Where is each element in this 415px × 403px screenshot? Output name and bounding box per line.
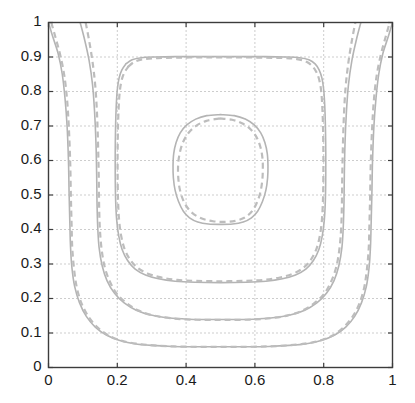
- contour-plot-figure: 00.20.40.60.8100.10.20.30.40.50.60.70.80…: [0, 0, 415, 403]
- y-tick-label: 0.6: [21, 150, 42, 167]
- y-tick-label: 0.1: [21, 323, 42, 340]
- plot-background: [0, 0, 415, 403]
- y-tick-label: 0.8: [21, 81, 42, 98]
- x-tick-label: 0: [44, 371, 52, 388]
- y-tick-label: 0.3: [21, 254, 42, 271]
- contour-plot-svg: 00.20.40.60.8100.10.20.30.40.50.60.70.80…: [0, 0, 415, 403]
- y-tick-label: 0: [33, 357, 41, 374]
- y-tick-label: 0.5: [21, 185, 42, 202]
- y-tick-label: 1: [33, 12, 41, 29]
- x-tick-label: 1: [388, 371, 396, 388]
- y-tick-label: 0.2: [21, 288, 42, 305]
- x-tick-label: 0.4: [176, 371, 197, 388]
- y-tick-label: 0.7: [21, 116, 42, 133]
- x-tick-label: 0.6: [244, 371, 265, 388]
- y-tick-label: 0.9: [21, 47, 42, 64]
- y-tick-label: 0.4: [21, 219, 42, 236]
- x-tick-label: 0.8: [313, 371, 334, 388]
- x-tick-label: 0.2: [107, 371, 128, 388]
